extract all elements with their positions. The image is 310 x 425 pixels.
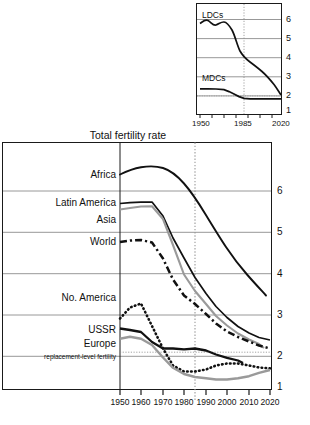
chart-page: LDCs MDCs 6 5 4 3 2 1 1950 1985 2020 Tot… (0, 0, 310, 425)
inset-ytick-6: 6 (286, 15, 291, 24)
inset-ytick-1: 1 (286, 106, 291, 115)
inset-xtick-2020: 2020 (272, 120, 290, 128)
main-ytick-6: 6 (277, 186, 283, 196)
main-label-ussr: USSR (2, 324, 116, 335)
main-ytick-2: 2 (277, 351, 283, 361)
inset-xtick-1950: 1950 (192, 120, 210, 128)
inset-gridlines (197, 20, 281, 96)
main-series-asia (120, 206, 264, 348)
inset-chart: LDCs MDCs 6 5 4 3 2 1 1950 1985 2020 (196, 3, 306, 116)
inset-label-mdcs: MDCs (202, 74, 226, 83)
main-xtick-2020: 2020 (253, 398, 287, 407)
main-ytick-1: 1 (277, 382, 283, 392)
inset-ytick-4: 4 (286, 53, 291, 62)
main-chart: Total fertility rate (2, 129, 308, 423)
main-ytick-3: 3 (277, 310, 283, 320)
main-label-world: World (2, 236, 116, 247)
main-series-ussr (120, 329, 243, 364)
main-label-no-america: No. America (2, 292, 116, 303)
inset-ytick-2: 2 (286, 91, 291, 100)
main-ytick-5: 5 (277, 227, 283, 237)
inset-xtick-1985: 1985 (234, 120, 252, 128)
main-series-africa (120, 166, 266, 295)
inset-label-ldcs: LDCs (202, 11, 223, 20)
inset-ytick-3: 3 (286, 72, 291, 81)
inset-series-mdcs (200, 89, 281, 99)
main-ytick-4: 4 (277, 269, 283, 279)
main-label-latin-america: Latin America (2, 197, 116, 208)
main-label-europe: Europe (2, 338, 116, 349)
main-label-africa: Africa (2, 169, 116, 180)
main-label-replacement-level-fertility: replacement-level fertility (16, 353, 116, 361)
main-label-asia: Asia (2, 214, 116, 225)
inset-ytick-5: 5 (286, 34, 291, 43)
